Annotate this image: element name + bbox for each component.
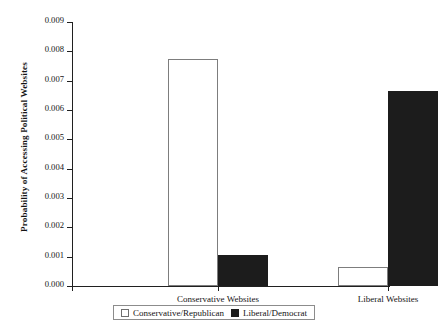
chart-legend: Conservative/Republican Liberal/Democrat (113, 305, 315, 320)
y-tick: 0.008 (67, 51, 72, 52)
legend-label-liberal: Liberal/Democrat (243, 308, 307, 318)
legend-label-conservative: Conservative/Republican (133, 308, 224, 318)
bar-conservative-1 (338, 267, 388, 286)
y-tick-label: 0.002 (45, 220, 64, 230)
y-tick: 0.009 (67, 22, 72, 23)
y-tick-label: 0.006 (45, 103, 64, 113)
legend-entry-liberal: Liberal/Democrat (231, 308, 307, 318)
y-tick-label: 0.004 (45, 162, 64, 172)
x-axis-line (72, 286, 390, 287)
y-tick: 0.002 (67, 227, 72, 228)
y-tick-label: 0.003 (45, 191, 64, 201)
legend-swatch-icon-conservative (121, 309, 129, 317)
y-tick: 0.006 (67, 110, 72, 111)
x-tick (388, 286, 389, 291)
y-tick-label: 0.001 (45, 250, 64, 260)
x-category-label: Conservative Websites (177, 294, 259, 304)
y-tick-label: 0.009 (45, 15, 64, 25)
y-tick: 0.001 (67, 257, 72, 258)
plot-area: 0.0000.0010.0020.0030.0040.0050.0060.007… (72, 22, 390, 286)
y-tick-label: 0.008 (45, 44, 64, 54)
x-tick (72, 286, 73, 291)
x-tick (218, 286, 219, 291)
x-category-label: Liberal Websites (358, 294, 418, 304)
y-tick: 0.005 (67, 139, 72, 140)
y-tick: 0.003 (67, 198, 72, 199)
y-tick: 0.004 (67, 169, 72, 170)
y-axis-title: Probability of Accessing Political Websi… (19, 27, 29, 267)
y-tick: 0.007 (67, 81, 72, 82)
y-tick-label: 0.000 (45, 279, 64, 289)
y-tick-label: 0.005 (45, 132, 64, 142)
bar-conservative-0 (168, 59, 218, 286)
bar-liberal-0 (218, 255, 268, 286)
y-tick-label: 0.007 (45, 74, 64, 84)
legend-entry-conservative: Conservative/Republican (121, 308, 224, 318)
y-axis-line (72, 22, 73, 287)
bar-liberal-1 (388, 91, 438, 286)
legend-swatch-icon-liberal (231, 309, 239, 317)
